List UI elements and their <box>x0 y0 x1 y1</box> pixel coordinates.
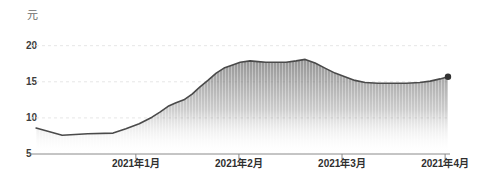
price-chart: 元 51015202021年1月2021年2月2021年3月2021年4月 <box>0 0 492 185</box>
price-area-texture <box>36 59 448 154</box>
end-point-dot <box>445 74 451 80</box>
chart-plot-surface[interactable] <box>0 0 492 185</box>
